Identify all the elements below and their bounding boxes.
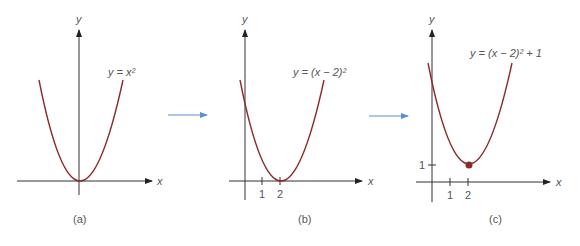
x-axis-label: x	[367, 175, 374, 187]
y-axis-label: y	[241, 13, 249, 25]
tick-label-1: 1	[259, 188, 265, 200]
equation-label: y = (x − 2)²	[292, 66, 347, 78]
x-axis-label: x	[156, 175, 163, 187]
vertex-point	[466, 162, 473, 169]
parabola-curve	[240, 80, 324, 181]
panel-caption: (c)	[489, 213, 502, 225]
parabola-curve	[428, 63, 512, 164]
panel-a: y x y = x² (a)	[17, 13, 163, 225]
panel-b: y x y = (x − 2)² 1 2 (b)	[229, 13, 374, 225]
equation-label: y = x²	[107, 66, 136, 78]
panel-caption: (a)	[73, 213, 86, 225]
equation-label: y = (x − 2)² + 1	[469, 47, 542, 59]
y-axis-label: y	[75, 13, 83, 25]
panel-c: y x y = (x − 2)² + 1 1 2 1 (c)	[416, 13, 562, 225]
panel-caption: (b)	[298, 213, 311, 225]
tick-label-2: 2	[277, 188, 283, 200]
parabola-curve	[39, 80, 123, 181]
tick-label-2: 2	[465, 189, 471, 201]
y-tick-label-1: 1	[419, 159, 425, 171]
y-axis-label: y	[428, 13, 436, 25]
x-axis-label: x	[555, 176, 562, 188]
tick-label-1: 1	[447, 189, 453, 201]
transformation-diagram: y x y = x² (a) y x y = (x − 2)² 1 2 (b) …	[0, 0, 580, 246]
